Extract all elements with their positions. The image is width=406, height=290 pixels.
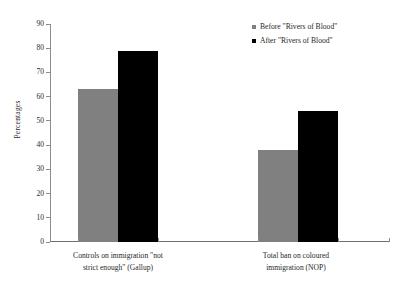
- y-axis-tick-label: 50: [24, 115, 44, 126]
- y-axis-tick-label: 0: [24, 236, 44, 247]
- y-axis-tick-label: 70: [24, 66, 44, 77]
- y-axis-tick-label: 40: [24, 139, 44, 150]
- bar-before-group-1: [78, 89, 118, 242]
- y-axis-tick-mark: [46, 24, 50, 25]
- y-axis-tick-mark: [46, 120, 50, 121]
- y-axis-tick-label: 90: [24, 18, 44, 29]
- legend-item-after: After "Rivers of Blood": [252, 35, 337, 46]
- x-axis-tick-mark: [78, 238, 79, 242]
- legend: Before "Rivers of Blood" After "Rivers o…: [252, 21, 337, 49]
- x-axis-label-line: immigration (NOP): [208, 262, 384, 274]
- plot-area: 0102030405060708090: [50, 24, 390, 242]
- y-axis-tick-mark: [46, 193, 50, 194]
- legend-label-after: After "Rivers of Blood": [260, 35, 333, 46]
- y-axis-tick-label: 80: [24, 42, 44, 53]
- x-axis-end-tick: [389, 238, 390, 242]
- x-axis-label-2: Total ban on colouredimmigration (NOP): [208, 250, 384, 273]
- legend-swatch-before-icon: [252, 25, 256, 29]
- y-axis-tick-label: 30: [24, 163, 44, 174]
- y-axis-title: Percentages: [13, 70, 22, 170]
- legend-swatch-after-icon: [252, 39, 256, 43]
- y-axis-tick-mark: [46, 169, 50, 170]
- bar-after-group-1: [118, 51, 158, 242]
- y-axis-tick-mark: [46, 96, 50, 97]
- y-axis-tick-mark: [46, 217, 50, 218]
- y-axis-tick-mark: [46, 72, 50, 73]
- y-axis-tick-mark: [46, 48, 50, 49]
- legend-label-before: Before "Rivers of Blood": [260, 21, 337, 32]
- bar-after-group-2: [298, 111, 338, 242]
- x-axis-label-line: strict enough" (Gallup): [18, 262, 218, 274]
- y-axis-tick-label: 10: [24, 212, 44, 223]
- y-axis-tick-label: 20: [24, 188, 44, 199]
- x-axis-tick-mark: [158, 238, 159, 242]
- bar-before-group-2: [258, 150, 298, 242]
- x-axis-tick-mark: [258, 238, 259, 242]
- y-axis-tick-mark: [46, 145, 50, 146]
- x-axis-label-line: Controls on immigration "not: [18, 250, 218, 262]
- x-axis-tick-mark: [338, 238, 339, 242]
- y-axis-tick-label: 60: [24, 91, 44, 102]
- legend-item-before: Before "Rivers of Blood": [252, 21, 337, 32]
- y-axis-line: [50, 24, 51, 242]
- x-axis-label-line: Total ban on coloured: [208, 250, 384, 262]
- bar-chart: Percentages 0102030405060708090 Controls…: [0, 0, 406, 290]
- y-axis-tick-mark: [46, 242, 50, 243]
- x-axis-label-1: Controls on immigration "notstrict enoug…: [18, 250, 218, 273]
